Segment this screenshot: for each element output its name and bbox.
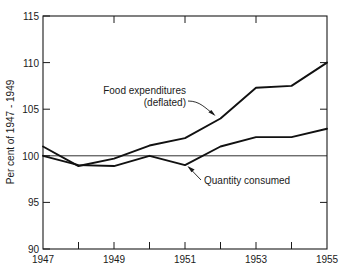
y-tick-label-100: 100 [22, 151, 39, 162]
x-tick-label-1947: 1947 [32, 254, 55, 265]
x-axis-ticks-top [114, 16, 256, 23]
y-tick-label-115: 115 [23, 11, 39, 22]
y-axis-title: Per cent of 1947 - 1949 [5, 79, 16, 184]
y-tick-label-110: 110 [23, 58, 39, 69]
food-expenditures-label-line2: (deflated) [144, 97, 186, 108]
x-tick-label-1953: 1953 [245, 254, 268, 265]
x-tick-label-1951: 1951 [174, 254, 197, 265]
chart-figure: 115 110 105 100 95 90 1947 1949 1951 195… [0, 0, 341, 278]
food-expenditures-label-line1: Food expenditures [103, 85, 186, 96]
series-food-expenditures [43, 63, 327, 166]
x-tick-label-1949: 1949 [103, 254, 126, 265]
series-quantity-consumed [43, 129, 327, 166]
y-tick-label-105: 105 [22, 104, 39, 115]
quantity-consumed-arrowhead [187, 166, 194, 172]
quantity-consumed-label: Quantity consumed [204, 175, 290, 186]
x-tick-label-1955: 1955 [316, 254, 339, 265]
plot-frame [43, 16, 327, 249]
x-axis-ticks [79, 242, 292, 249]
y-tick-label-95: 95 [28, 197, 40, 208]
line-chart: 115 110 105 100 95 90 1947 1949 1951 195… [0, 0, 341, 278]
y-axis-ticks-right [320, 63, 327, 203]
y-axis-ticks [43, 16, 50, 249]
